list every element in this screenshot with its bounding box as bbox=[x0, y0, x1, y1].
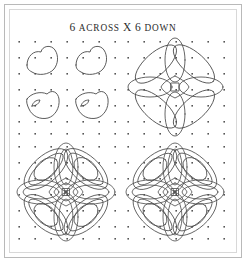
dot-grid-tl bbox=[18, 41, 116, 135]
title-across-word: ACROSS bbox=[79, 23, 120, 33]
leaf-motif bbox=[27, 46, 58, 74]
title-down-word: DOWN bbox=[144, 23, 176, 33]
panel-bottom-left bbox=[14, 141, 123, 246]
leaf-motif bbox=[76, 46, 107, 74]
page-title: 6 ACROSS X 6 DOWN bbox=[0, 17, 246, 35]
panel-top-left bbox=[14, 36, 123, 141]
knot-bands-bl bbox=[17, 141, 115, 242]
panels-container bbox=[14, 36, 232, 246]
title-times-symbol: X bbox=[123, 21, 132, 33]
leaf-motif bbox=[27, 92, 60, 119]
panel-bottom-right bbox=[123, 141, 232, 246]
leaf-motif bbox=[76, 92, 109, 119]
panel-top-right bbox=[123, 36, 232, 141]
knot-bands-br bbox=[126, 141, 224, 242]
figure-page: 6 ACROSS X 6 DOWN bbox=[0, 0, 246, 262]
